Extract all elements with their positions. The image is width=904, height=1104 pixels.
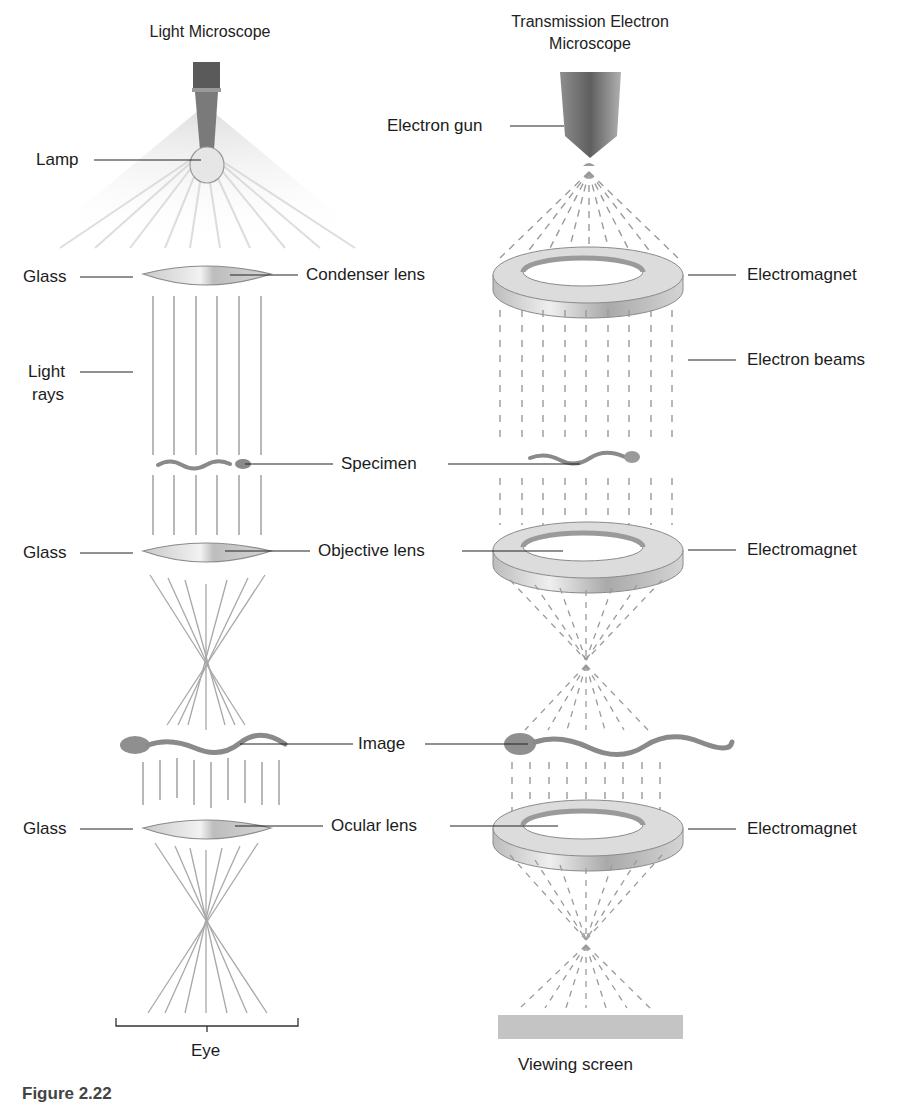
image-light <box>120 735 285 754</box>
label-glass-objective: Glass <box>23 543 66 563</box>
viewing-screen-plate <box>498 1015 683 1039</box>
electron-beam-focus-2 <box>510 855 662 1008</box>
label-light-rays-2: rays <box>32 385 64 405</box>
electron-beam-divergent <box>500 172 678 258</box>
converging-rays-ocular <box>148 843 267 1013</box>
electromagnet-ring-2 <box>493 522 683 593</box>
label-lamp: Lamp <box>36 150 79 170</box>
label-condenser-lens: Condenser lens <box>306 265 425 285</box>
light-rays-after-image <box>143 758 279 808</box>
light-rays <box>153 296 261 535</box>
label-viewing-screen: Viewing screen <box>518 1055 633 1075</box>
label-glass-ocular: Glass <box>23 819 66 839</box>
converging-rays-objective <box>150 575 265 730</box>
label-ocular-lens: Ocular lens <box>331 816 417 836</box>
electromagnet-ring-3 <box>493 800 683 871</box>
label-light-rays-1: Light <box>28 362 65 382</box>
electron-beams-parallel <box>500 310 672 525</box>
label-electromagnet-3: Electromagnet <box>747 819 857 839</box>
label-electromagnet-2: Electromagnet <box>747 540 857 560</box>
ocular-glass-lens <box>143 820 271 839</box>
label-objective-lens: Objective lens <box>318 541 425 561</box>
label-glass-condenser: Glass <box>23 267 66 287</box>
electromagnet-ring-1 <box>493 247 683 318</box>
figure-caption: Figure 2.22 <box>22 1084 112 1104</box>
label-electron-beams: Electron beams <box>747 350 865 370</box>
electron-beam-focus-1 <box>510 580 662 730</box>
specimen-tem <box>530 451 640 464</box>
label-specimen: Specimen <box>341 454 417 474</box>
electron-gun-icon <box>560 72 621 166</box>
objective-glass-lens <box>143 543 271 562</box>
eye-bracket <box>116 1018 298 1032</box>
specimen-light <box>158 459 251 469</box>
image-tem <box>504 733 732 755</box>
label-electron-gun: Electron gun <box>387 116 482 136</box>
label-eye: Eye <box>191 1041 220 1061</box>
label-electromagnet-1: Electromagnet <box>747 265 857 285</box>
label-image: Image <box>358 734 405 754</box>
